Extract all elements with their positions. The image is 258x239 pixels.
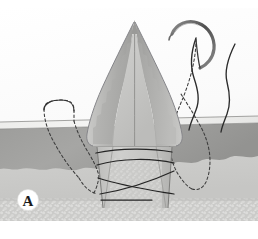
cross-section-illustration: A [0,8,258,221]
caption-zone [0,221,258,239]
figure-root: A [0,0,258,239]
panel-label-text: A [23,193,34,209]
illustration-panel: A [0,8,258,221]
panel-label: A [18,190,39,211]
